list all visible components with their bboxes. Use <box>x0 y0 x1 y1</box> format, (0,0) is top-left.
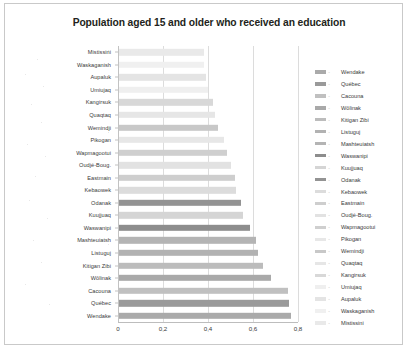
y-axis-label: Waskaganish <box>77 62 111 68</box>
legend-dash: - <box>326 69 332 75</box>
legend-dash: - <box>326 165 332 171</box>
bar-row <box>118 309 298 322</box>
bar <box>118 300 289 306</box>
legend-swatch <box>315 250 326 253</box>
legend-swatch <box>315 154 326 157</box>
legend-item[interactable]: -Waskaganish <box>313 305 405 317</box>
legend-dash: - <box>326 212 332 218</box>
legend-label: Listuguj <box>341 129 360 135</box>
legend-item[interactable]: -Kebaowek <box>313 186 405 198</box>
legend-item[interactable]: -Québec <box>313 78 405 90</box>
legend-label: Odanak <box>341 177 361 183</box>
legend-item[interactable]: -Aupaluk <box>313 293 405 305</box>
legend-label: Mistissini <box>341 320 364 326</box>
y-axis-label: Cacouna <box>88 288 111 294</box>
scan-speck <box>31 104 32 105</box>
legend-label: Wôlinak <box>341 105 361 111</box>
legend-item[interactable]: -Waswanipi <box>313 150 405 162</box>
legend-label: Mashteuiatsh <box>341 141 374 147</box>
bar <box>118 200 241 206</box>
legend-swatch <box>315 285 326 288</box>
legend-label: Wendake <box>341 69 365 75</box>
y-axis-label: Mashteuiatsh <box>77 237 111 243</box>
legend-dash: - <box>326 296 332 302</box>
y-axis-label: Québec <box>91 300 111 306</box>
x-axis-label: 0,4 <box>204 325 213 332</box>
legend-item[interactable]: -Kitigan Zibi <box>313 114 405 126</box>
bar <box>118 262 263 268</box>
legend-item[interactable]: -Cacouna <box>313 90 405 102</box>
legend-item[interactable]: -Listuguj <box>313 126 405 138</box>
bar <box>118 187 236 193</box>
legend-dash: - <box>326 236 332 242</box>
bar <box>118 212 243 218</box>
y-axis-label: Wapmagootui <box>76 150 111 156</box>
gridline-0-8 <box>298 46 299 322</box>
legend-item[interactable]: -Wemindji <box>313 245 405 257</box>
legend-swatch <box>315 238 326 241</box>
legend-dash: - <box>326 93 332 99</box>
legend-dash: - <box>326 81 332 87</box>
bar-row <box>118 259 298 272</box>
bar-row <box>118 134 298 147</box>
bar <box>118 87 208 93</box>
bar <box>118 99 213 105</box>
legend-dash: - <box>326 320 332 326</box>
legend-item[interactable]: -Wapmagootui <box>313 221 405 233</box>
x-axis-line <box>118 322 298 323</box>
legend-dash: - <box>326 224 332 230</box>
bar-row <box>118 184 298 197</box>
legend-item[interactable]: -Wendake <box>313 66 405 78</box>
legend-item[interactable]: -Mistissini <box>313 317 405 329</box>
legend-dash: - <box>326 129 332 135</box>
legend-item[interactable]: -Pikogan <box>313 233 405 245</box>
legend-dash: - <box>326 308 332 314</box>
legend-item[interactable]: -Odanak <box>313 174 405 186</box>
scan-speck <box>49 304 50 305</box>
bar <box>118 237 256 243</box>
legend-dash: - <box>326 272 332 278</box>
legend-label: Cacouna <box>341 93 363 99</box>
x-axis-label: 0,8 <box>294 325 303 332</box>
x-axis-tick-labels: 00,20,40,60,8 <box>118 325 298 339</box>
bar-row <box>118 96 298 109</box>
legend-swatch <box>315 321 326 324</box>
legend-dash: - <box>326 153 332 159</box>
bar-row <box>118 209 298 222</box>
legend-item[interactable]: -Eastmain <box>313 198 405 210</box>
legend-swatch <box>315 82 326 85</box>
legend-label: Wemindji <box>341 248 364 254</box>
legend-swatch <box>315 142 326 145</box>
legend-dash: - <box>326 284 332 290</box>
legend-dash: - <box>326 117 332 123</box>
scan-speck <box>47 218 48 219</box>
legend-label: Umiujaq <box>341 284 362 290</box>
legend-swatch <box>315 309 326 312</box>
legend-label: Oudjé-Boug. <box>341 212 372 218</box>
legend-item[interactable]: -Quaqtaq <box>313 257 405 269</box>
legend-item[interactable]: -Umiujaq <box>313 281 405 293</box>
legend-item[interactable]: -Kangirsuk <box>313 269 405 281</box>
legend-swatch <box>315 297 326 300</box>
legend-dash: - <box>326 189 332 195</box>
legend-item[interactable]: -Mashteuiatsh <box>313 138 405 150</box>
legend-item[interactable]: -Oudjé-Boug. <box>313 209 405 221</box>
legend-item[interactable]: -Kuujjuaq <box>313 162 405 174</box>
legend-item[interactable]: -Wôlinak <box>313 102 405 114</box>
y-axis-label: Waswanipi <box>84 225 111 231</box>
bar-row <box>118 197 298 210</box>
bar-row <box>118 159 298 172</box>
legend-label: Quaqtaq <box>341 260 362 266</box>
legend-dash: - <box>326 105 332 111</box>
bar-row <box>118 222 298 235</box>
legend-label: Waskaganish <box>341 308 374 314</box>
legend-dash: - <box>326 177 332 183</box>
y-axis-label: Listuguj <box>91 250 111 256</box>
y-axis-label: Eastmain <box>87 175 111 181</box>
legend-swatch <box>315 106 326 109</box>
scan-speck <box>41 262 42 263</box>
legend-label: Pikogan <box>341 236 361 242</box>
chart-frame: Population aged 15 and older who receive… <box>4 3 403 345</box>
y-axis-label: Kitigan Zibi <box>83 263 111 269</box>
y-axis-label: Wendake <box>87 313 111 319</box>
